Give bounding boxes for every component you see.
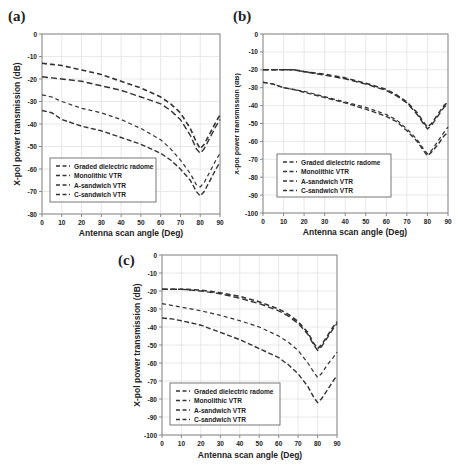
x-tick-label: 20	[197, 440, 205, 447]
y-tick-label: -70	[28, 188, 38, 195]
y-tick-label: -80	[28, 211, 38, 218]
legend-entry: Graded dielectric radome	[194, 388, 274, 395]
legend-entry: Monolithic VTR	[301, 168, 349, 175]
y-tick-label: -100	[245, 210, 258, 217]
legend: Graded dielectric radomeMonolithic VTRA-…	[170, 383, 280, 425]
y-tick-label: -100	[144, 432, 157, 439]
x-tick-label: 60	[157, 219, 165, 226]
series-line	[263, 70, 448, 129]
y-tick-label: -50	[249, 120, 259, 127]
x-tick-label: 0	[261, 218, 265, 225]
x-tick-label: 30	[98, 219, 106, 226]
x-tick-label: 50	[137, 219, 145, 226]
x-tick-label: 80	[424, 218, 432, 225]
y-tick-label: -40	[148, 324, 158, 331]
panel-b: (b) Antenna scan angle (Deg) X-pol power…	[235, 0, 467, 240]
x-tick-label: 70	[403, 218, 411, 225]
legend: Graded dielectric radomeMonolithic VTRA-…	[277, 154, 391, 197]
x-tick-label: 60	[383, 218, 391, 225]
legend-entry: Graded dielectric radome	[74, 163, 154, 170]
x-tick-label: 60	[275, 440, 283, 447]
series-line	[42, 77, 220, 154]
y-tick-label: -10	[148, 270, 158, 277]
y-tick-label: -60	[148, 360, 158, 367]
x-tick-label: 10	[178, 440, 186, 447]
chart-c: Antenna scan angle (Deg) X-pol power tra…	[110, 235, 360, 472]
y-tick-label: -30	[249, 84, 259, 91]
x-tick-label: 90	[333, 440, 341, 447]
x-tick-label: 70	[294, 440, 302, 447]
x-tick-label: 50	[362, 218, 370, 225]
chart-a: Antenna scan angle (Deg) X-pol power tra…	[0, 0, 235, 240]
y-tick-label: 0	[153, 252, 157, 259]
legend-entry: A-sandwich VTR	[194, 407, 246, 414]
y-tick-label: 0	[33, 31, 37, 38]
y-tick-label: -60	[28, 166, 38, 173]
y-tick-label: 0	[254, 31, 258, 38]
x-tick-label: 50	[256, 440, 264, 447]
legend-entry: Graded dielectric radome	[301, 159, 381, 166]
x-tick-label: 10	[280, 218, 288, 225]
y-axis-label-c: X-pol power transmission (dB)	[132, 283, 142, 406]
legend-entry: C-sandwich VTR	[194, 416, 246, 423]
legend-entry: C-sandwich VTR	[74, 191, 126, 198]
x-axis-label-c: Antenna scan angle (Deg)	[198, 450, 303, 460]
series-line	[42, 63, 220, 149]
y-tick-label: -20	[249, 66, 259, 73]
x-tick-label: 30	[321, 218, 329, 225]
x-tick-label: 80	[314, 440, 322, 447]
x-tick-label: 30	[217, 440, 225, 447]
y-tick-label: -50	[148, 342, 158, 349]
y-tick-label: -90	[148, 414, 158, 421]
series-line	[263, 82, 448, 155]
x-tick-label: 40	[236, 440, 244, 447]
panel-a: (a) Antenna scan angle (Deg) X-pol power…	[0, 0, 235, 240]
series-line	[263, 70, 448, 127]
y-tick-label: -40	[249, 102, 259, 109]
x-tick-label: 20	[78, 219, 86, 226]
y-tick-label: -80	[148, 396, 158, 403]
y-tick-label: -70	[249, 156, 259, 163]
legend-entry: Monolithic VTR	[194, 397, 242, 404]
y-tick-label: -30	[148, 306, 158, 313]
x-tick-label: 40	[342, 218, 350, 225]
x-tick-label: 80	[197, 219, 205, 226]
x-tick-label: 0	[40, 219, 44, 226]
y-axis-label-a: X-pol power transmission (dB)	[12, 62, 22, 185]
legend: Graded dielectric radomeMonolithic VTRA-…	[50, 158, 156, 202]
y-tick-label: -90	[249, 192, 259, 199]
legend-entry: A-sandwich VTR	[301, 178, 353, 185]
x-tick-label: 70	[177, 219, 185, 226]
y-tick-label: -50	[28, 143, 38, 150]
y-tick-label: -60	[249, 138, 259, 145]
y-tick-label: -30	[28, 98, 38, 105]
y-tick-label: -10	[28, 53, 38, 60]
legend-entry: C-sandwich VTR	[301, 187, 353, 194]
y-tick-label: -80	[249, 174, 259, 181]
chart-b: Antenna scan angle (Deg) X-pol power tra…	[235, 0, 467, 240]
x-tick-label: 40	[117, 219, 125, 226]
x-tick-label: 10	[58, 219, 66, 226]
y-tick-label: -10	[249, 48, 259, 55]
panel-c: (c) Antenna scan angle (Deg) X-pol power…	[110, 235, 360, 472]
y-tick-label: -40	[28, 121, 38, 128]
y-axis-label-b: X-pol power transmission (dB)	[235, 73, 241, 175]
y-tick-label: -20	[148, 288, 158, 295]
x-tick-label: 0	[160, 440, 164, 447]
y-tick-label: -70	[148, 378, 158, 385]
legend-entry: Monolithic VTR	[74, 172, 122, 179]
x-tick-label: 90	[216, 219, 224, 226]
legend-entry: A-sandwich VTR	[74, 182, 126, 189]
x-tick-label: 20	[300, 218, 308, 225]
x-tick-label: 90	[444, 218, 452, 225]
y-tick-label: -20	[28, 76, 38, 83]
